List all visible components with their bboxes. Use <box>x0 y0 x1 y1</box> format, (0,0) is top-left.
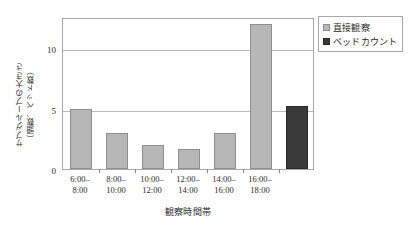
legend-item: 直接観察 <box>323 20 397 34</box>
x-axis-tick-label-line: 6:00– <box>70 174 89 185</box>
x-axis-tick-label-line: 8:00 <box>70 185 89 196</box>
x-axis-tick-label-line: 10:00 <box>106 185 125 196</box>
x-axis-tick-label-line: 12:00 <box>140 185 164 196</box>
x-axis-tick-mark <box>99 169 100 173</box>
x-axis-title: 観察時間帯 <box>62 205 314 218</box>
y-axis-title-line-2: （頭数、ベッド数） <box>25 67 36 143</box>
x-axis-tick-label-line: 8:00– <box>106 174 125 185</box>
bar <box>286 106 308 169</box>
x-axis-tick-label: 8:00–10:00 <box>106 174 125 196</box>
x-axis-tick-mark <box>135 169 136 173</box>
bar <box>214 133 236 169</box>
x-axis-tick-label-line: 18:00 <box>248 185 272 196</box>
y-axis-tick-label: 10 <box>47 45 56 55</box>
y-axis-tick-label: 0 <box>52 166 57 176</box>
x-axis-tick-label-line: 14:00– <box>212 174 236 185</box>
x-axis-tick-label-line: 10:00– <box>140 174 164 185</box>
bar <box>70 109 92 169</box>
legend: 直接観察ベッドカウント <box>318 16 403 52</box>
plot-area <box>62 18 314 170</box>
bar <box>250 24 272 169</box>
y-axis-tick-labels: 0510 <box>36 18 60 170</box>
x-axis-tick-label: 6:00–8:00 <box>70 174 89 196</box>
legend-label: ベッドカウント <box>333 35 397 48</box>
legend-label: 直接観察 <box>333 21 370 34</box>
legend-swatch-icon <box>323 24 330 31</box>
x-axis-tick-label-line: 14:00 <box>176 185 200 196</box>
x-axis-tick-label: 10:00–12:00 <box>140 174 164 196</box>
x-axis-tick-label: 14:00–16:00 <box>212 174 236 196</box>
legend-swatch-icon <box>323 38 330 45</box>
bar-chart: サブグループの大きさ （頭数、ベッド数） 0510 6:00–8:008:00–… <box>0 0 415 234</box>
bar-group <box>63 19 313 169</box>
x-axis-tick-label-line: 12:00– <box>176 174 200 185</box>
x-axis-tick-label-line: 16:00 <box>212 185 236 196</box>
x-axis-tick-label-line: 16:00– <box>248 174 272 185</box>
bar <box>106 133 128 169</box>
bar <box>142 145 164 169</box>
x-axis-tick-mark <box>171 169 172 173</box>
x-axis-tick-label: 12:00–14:00 <box>176 174 200 196</box>
y-axis-title-line-1: サブグループの大きさ <box>14 63 25 147</box>
x-axis-tick-label: 16:00–18:00 <box>248 174 272 196</box>
x-axis-tick-mark <box>279 169 280 173</box>
legend-item: ベッドカウント <box>323 34 397 48</box>
x-axis-tick-labels: 6:00–8:008:00–10:0010:00–12:0012:00–14:0… <box>62 174 314 204</box>
x-axis-tick-mark <box>207 169 208 173</box>
bar <box>178 149 200 170</box>
x-axis-tick-mark <box>243 169 244 173</box>
y-axis-tick-label: 5 <box>52 106 57 116</box>
